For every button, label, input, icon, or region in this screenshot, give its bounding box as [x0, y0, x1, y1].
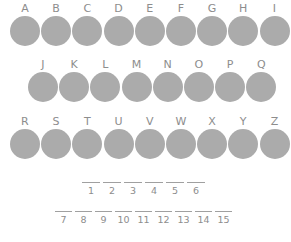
circle-cell-q[interactable]: Q — [246, 58, 276, 102]
answer-blank-9[interactable]: 9 — [95, 211, 112, 226]
circle-icon[interactable] — [59, 72, 89, 102]
answer-blank-14[interactable]: 14 — [195, 211, 212, 226]
circle-cell-k[interactable]: K — [59, 58, 89, 102]
answer-blank-7[interactable]: 7 — [55, 211, 72, 226]
circle-cell-r[interactable]: R — [10, 115, 40, 159]
circle-cell-u[interactable]: U — [104, 115, 134, 159]
circle-icon[interactable] — [215, 72, 245, 102]
circle-cell-c[interactable]: C — [72, 2, 102, 46]
circle-icon[interactable] — [228, 16, 258, 46]
circle-icon[interactable] — [10, 16, 40, 46]
blank-rule — [115, 211, 132, 212]
circle-cell-z[interactable]: Z — [260, 115, 290, 159]
circle-icon[interactable] — [28, 72, 58, 102]
answer-blank-15[interactable]: 15 — [215, 211, 232, 226]
answer-blank-2[interactable]: 2 — [103, 182, 121, 197]
answer-blank-13[interactable]: 13 — [175, 211, 192, 226]
blank-rule — [175, 211, 192, 212]
circle-icon[interactable] — [184, 72, 214, 102]
circle-cell-v[interactable]: V — [135, 115, 165, 159]
circle-letter-label: L — [102, 58, 108, 71]
circle-icon[interactable] — [260, 16, 290, 46]
circle-icon[interactable] — [90, 72, 120, 102]
circle-letter-label: D — [114, 2, 123, 15]
circle-icon[interactable] — [153, 72, 183, 102]
blank-number-label: 5 — [172, 185, 178, 197]
blank-number-label: 3 — [130, 185, 136, 197]
answer-line-2: 789101112131415 — [55, 211, 235, 226]
circle-letter-label: F — [178, 2, 185, 15]
blank-rule — [166, 182, 184, 183]
circle-cell-p[interactable]: P — [215, 58, 245, 102]
circle-cell-w[interactable]: W — [166, 115, 196, 159]
blank-rule — [195, 211, 212, 212]
circle-cell-m[interactable]: M — [122, 58, 152, 102]
circle-cell-o[interactable]: O — [184, 58, 214, 102]
blank-number-label: 14 — [197, 214, 209, 226]
circle-icon[interactable] — [166, 129, 196, 159]
answer-blank-8[interactable]: 8 — [75, 211, 92, 226]
circle-letter-label: G — [208, 2, 217, 15]
circle-icon[interactable] — [197, 129, 227, 159]
circle-cell-h[interactable]: H — [228, 2, 258, 46]
blank-number-label: 9 — [100, 214, 106, 226]
answer-blank-3[interactable]: 3 — [124, 182, 142, 197]
circle-icon[interactable] — [246, 72, 276, 102]
circle-cell-l[interactable]: L — [90, 58, 120, 102]
blank-number-label: 8 — [80, 214, 86, 226]
circle-cell-s[interactable]: S — [41, 115, 71, 159]
circle-icon[interactable] — [72, 16, 102, 46]
circle-icon[interactable] — [104, 16, 134, 46]
circle-letter-label: I — [273, 2, 276, 15]
blank-rule — [187, 182, 205, 183]
circle-cell-i[interactable]: I — [260, 2, 290, 46]
circle-icon[interactable] — [72, 129, 102, 159]
circle-icon[interactable] — [135, 16, 165, 46]
circle-cell-y[interactable]: Y — [228, 115, 258, 159]
circle-icon[interactable] — [135, 129, 165, 159]
circle-cell-a[interactable]: A — [10, 2, 40, 46]
blank-number-label: 2 — [109, 185, 115, 197]
answer-blank-10[interactable]: 10 — [115, 211, 132, 226]
answer-blank-11[interactable]: 11 — [135, 211, 152, 226]
answer-blank-6[interactable]: 6 — [187, 182, 205, 197]
circle-letter-label: C — [83, 2, 91, 15]
circle-cell-b[interactable]: B — [41, 2, 71, 46]
blank-number-label: 13 — [177, 214, 189, 226]
circle-letter-label: S — [53, 115, 60, 128]
circle-cell-j[interactable]: J — [28, 58, 58, 102]
answer-blank-4[interactable]: 4 — [145, 182, 163, 197]
circle-cell-x[interactable]: X — [197, 115, 227, 159]
circle-icon[interactable] — [166, 16, 196, 46]
circle-cell-d[interactable]: D — [104, 2, 134, 46]
answer-blank-1[interactable]: 1 — [82, 182, 100, 197]
circle-cell-t[interactable]: T — [72, 115, 102, 159]
blank-number-label: 15 — [217, 214, 229, 226]
circle-row-3: RSTUVWXYZ — [10, 115, 291, 159]
answer-blank-12[interactable]: 12 — [155, 211, 172, 226]
circle-cell-f[interactable]: F — [166, 2, 196, 46]
circle-icon[interactable] — [41, 16, 71, 46]
circle-letter-label: U — [114, 115, 122, 128]
blank-rule — [103, 182, 121, 183]
circle-cell-n[interactable]: N — [153, 58, 183, 102]
blank-rule — [135, 211, 152, 212]
circle-icon[interactable] — [228, 129, 258, 159]
circle-icon[interactable] — [122, 72, 152, 102]
answer-blank-5[interactable]: 5 — [166, 182, 184, 197]
blank-rule — [155, 211, 172, 212]
circle-icon[interactable] — [10, 129, 40, 159]
circle-letter-label: H — [239, 2, 247, 15]
circle-cell-g[interactable]: G — [197, 2, 227, 46]
blank-number-label: 12 — [157, 214, 169, 226]
circle-letter-label: Z — [271, 115, 279, 128]
circle-icon[interactable] — [197, 16, 227, 46]
circle-icon[interactable] — [260, 129, 290, 159]
circle-icon[interactable] — [104, 129, 134, 159]
answer-line-1: 123456 — [82, 182, 208, 197]
blank-number-label: 4 — [151, 185, 157, 197]
circle-cell-e[interactable]: E — [135, 2, 165, 46]
circle-icon[interactable] — [41, 129, 71, 159]
circle-row-2: JKLMNOPQ — [28, 58, 278, 102]
blank-rule — [82, 182, 100, 183]
